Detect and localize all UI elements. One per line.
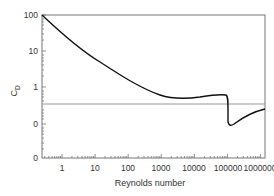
x-axis-ticks bbox=[45, 154, 261, 158]
y-tick-labels: 100 10 1 0 0 bbox=[24, 10, 38, 163]
y-tick-label: 1 bbox=[33, 82, 38, 92]
x-tick-label: 1000000 bbox=[243, 163, 274, 173]
y-tick-label: 10 bbox=[29, 46, 39, 56]
svg-text:CD: CD bbox=[9, 85, 21, 97]
y-tick-label: 0 bbox=[33, 119, 38, 129]
y-tick-label: 0 bbox=[33, 153, 38, 163]
y-tick-label: 100 bbox=[24, 10, 38, 20]
x-tick-label: 10000 bbox=[182, 163, 206, 173]
x-tick-label: 1000 bbox=[152, 163, 171, 173]
x-tick-label: 1 bbox=[60, 163, 65, 173]
x-tick-label: 10 bbox=[90, 163, 100, 173]
y-axis-title: CD bbox=[9, 85, 21, 97]
drag-coefficient-curve bbox=[42, 15, 265, 125]
drag-coefficient-chart: 100 10 1 0 0 CD 1 10 100 1000 10000 1000… bbox=[0, 0, 274, 196]
x-tick-label: 100000 bbox=[214, 163, 243, 173]
plot-frame bbox=[42, 15, 265, 158]
x-tick-labels: 1 10 100 1000 10000 100000 1000000 bbox=[60, 163, 274, 173]
y-axis-ticks bbox=[42, 15, 46, 149]
x-axis-title: Reynolds number bbox=[115, 178, 186, 188]
x-tick-label: 100 bbox=[121, 163, 135, 173]
